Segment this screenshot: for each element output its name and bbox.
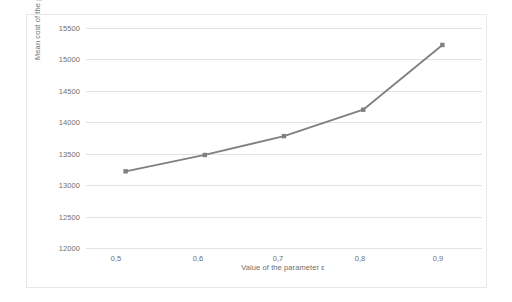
x-axis-tick-label: 0,5 bbox=[111, 254, 122, 263]
y-axis-tick-label: 12500 bbox=[59, 212, 80, 221]
y-axis-tick-label: 13000 bbox=[59, 181, 80, 190]
y-axis-tick-label: 13500 bbox=[59, 149, 80, 158]
series-line bbox=[126, 45, 443, 171]
data-point-marker bbox=[361, 108, 365, 112]
data-series-layer bbox=[86, 28, 482, 248]
data-point-marker bbox=[440, 43, 444, 47]
y-axis-tick-label: 15500 bbox=[59, 24, 80, 33]
x-axis-tick-label: 0,8 bbox=[355, 254, 366, 263]
data-point-marker bbox=[203, 153, 207, 157]
plot-area: 15500 15000 14500 14000 13500 13000 1250… bbox=[86, 28, 482, 248]
data-point-marker bbox=[282, 134, 286, 138]
series-markers bbox=[123, 43, 444, 174]
gridline: 12000 bbox=[86, 248, 482, 249]
y-axis-tick-label: 14500 bbox=[59, 86, 80, 95]
data-point-marker bbox=[123, 169, 127, 173]
y-axis-tick-label: 12000 bbox=[59, 244, 80, 253]
x-axis-title: Value of the parameter ε bbox=[85, 263, 481, 272]
x-axis-tick-label: 0,9 bbox=[433, 254, 444, 263]
y-axis-tick-label: 14000 bbox=[59, 118, 80, 127]
x-axis-tick-label: 0,6 bbox=[193, 254, 204, 263]
y-axis-title: Mean cost of the production bbox=[33, 0, 43, 60]
x-axis-tick-label: 0,7 bbox=[273, 254, 284, 263]
y-axis-tick-label: 15000 bbox=[59, 55, 80, 64]
chart-frame: 15500 15000 14500 14000 13500 13000 1250… bbox=[26, 14, 487, 288]
